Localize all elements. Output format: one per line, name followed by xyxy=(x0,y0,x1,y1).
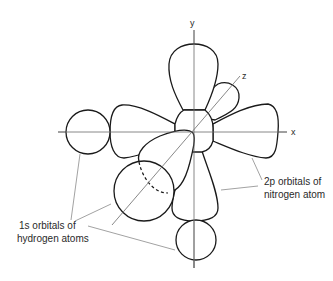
x-axis-label: x xyxy=(291,127,296,137)
orbital-diagram: y x z 2p orbitals of nitrogen atom 1s or… xyxy=(0,0,333,281)
z-axis-label: z xyxy=(242,71,247,81)
hydrogen-label-line1: 1s orbitals of xyxy=(19,220,76,231)
nitrogen-leader-upper xyxy=(252,158,262,180)
hydrogen-leader-bottom xyxy=(88,226,175,250)
hydrogen-leader-front xyxy=(75,204,111,221)
nitrogen-leader-lower xyxy=(221,186,258,190)
nitrogen-leaders xyxy=(221,158,262,190)
h1s-bottom-circle xyxy=(176,220,216,260)
hydrogen-label-line2: hydrogen atoms xyxy=(17,233,89,244)
nitrogen-label-line1: 2p orbitals of xyxy=(264,176,321,187)
hydrogen-leader-left xyxy=(71,154,80,220)
nitrogen-label-line2: nitrogen atom xyxy=(264,189,325,200)
y-axis-label: y xyxy=(190,18,195,28)
